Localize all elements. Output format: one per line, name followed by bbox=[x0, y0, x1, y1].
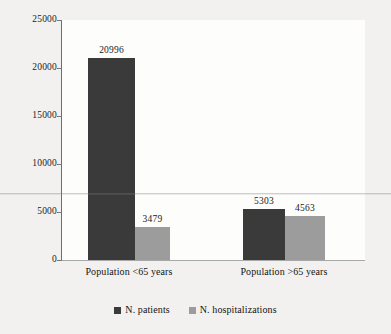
legend-label: N. patients bbox=[125, 305, 169, 315]
bar-n-hospitalizations bbox=[285, 216, 325, 260]
legend-label: N. hospitalizations bbox=[200, 305, 277, 315]
bar-value-label: 20996 bbox=[87, 46, 137, 56]
bar-value-label: 4563 bbox=[280, 204, 330, 214]
y-axis-tick-mark bbox=[57, 164, 62, 165]
y-axis-tick-mark bbox=[57, 20, 62, 21]
y-axis-tick-mark bbox=[57, 116, 62, 117]
bar-n-patients bbox=[88, 58, 135, 260]
chart-legend: N. patients N. hospitalizations bbox=[0, 305, 391, 315]
category-label: Population <65 years bbox=[59, 266, 199, 277]
legend-swatch-icon bbox=[114, 307, 121, 314]
y-axis-tick-label: 15000 bbox=[0, 111, 57, 121]
y-axis-tick-mark bbox=[57, 212, 62, 213]
y-axis-tick-label: 25000 bbox=[0, 15, 57, 25]
y-axis-tick-label: 5000 bbox=[0, 207, 57, 217]
y-axis-tick-label: 0 bbox=[0, 255, 57, 265]
legend-item-n-hospitalizations: N. hospitalizations bbox=[189, 305, 277, 315]
category-label: Population >65 years bbox=[214, 266, 354, 277]
legend-swatch-icon bbox=[189, 307, 196, 314]
x-axis-line bbox=[61, 260, 365, 261]
y-axis-line bbox=[61, 20, 62, 261]
bar-n-hospitalizations bbox=[135, 227, 170, 260]
y-axis-tick-label: 20000 bbox=[0, 63, 57, 73]
y-axis-tick-label: 10000 bbox=[0, 159, 57, 169]
legend-item-n-patients: N. patients bbox=[114, 305, 169, 315]
y-axis-tick-mark bbox=[57, 260, 62, 261]
bar-n-patients bbox=[243, 209, 285, 260]
bar-value-label: 3479 bbox=[128, 215, 178, 225]
y-axis-tick-mark bbox=[57, 68, 62, 69]
bar-chart-figure: 2500020000150001000050000 20996347953034… bbox=[0, 0, 391, 334]
